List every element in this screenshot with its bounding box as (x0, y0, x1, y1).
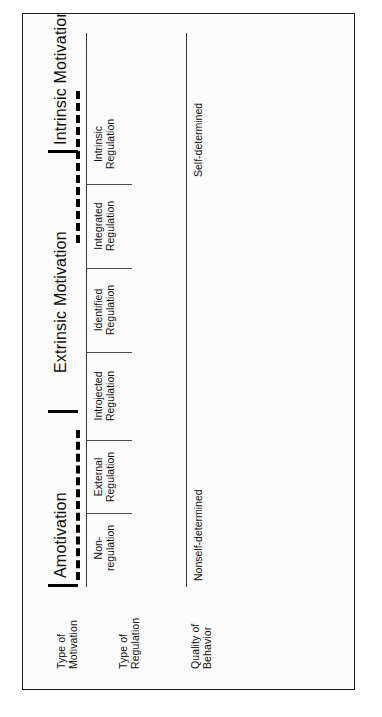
continuum-dash-amotivation-extrinsic (76, 430, 80, 580)
continuum-dash-extrinsic-intrinsic (76, 91, 80, 243)
band-tick-amotivation (48, 584, 78, 587)
regulation-divider-4 (86, 268, 132, 269)
regulation-label-intrinsic-regulation: Intrinsic Regulation (92, 107, 116, 181)
diagram-canvas: Type of Motivation Amotivation Extrinsic… (23, 14, 356, 691)
row-label-type-of-regulation: Type of Regulation (118, 609, 141, 669)
regulation-label-external-regulation: External Regulation (92, 443, 116, 511)
band-label-extrinsic-motivation: Extrinsic Motivation (52, 231, 70, 373)
regulation-divider-2 (86, 440, 132, 441)
band-label-amotivation: Amotivation (52, 492, 70, 578)
sdt-continuum-diagram: Type of Motivation Amotivation Extrinsic… (40, 33, 340, 673)
regulation-divider-5 (86, 184, 132, 185)
band-tick-intrinsic (48, 150, 78, 153)
band-label-intrinsic-motivation: Intrinsic Motivation (52, 14, 70, 145)
behavior-row-rule (186, 33, 187, 587)
regulation-row-rule (86, 33, 87, 587)
regulation-label-introjected-regulation: Introjected Regulation (92, 355, 116, 437)
behavior-label-self-determined: Self-determined (192, 102, 204, 176)
band-tick-extrinsic (48, 410, 78, 413)
regulation-divider-1 (86, 513, 132, 514)
figure-border: Type of Motivation Amotivation Extrinsic… (22, 13, 355, 690)
figure-page: Type of Motivation Amotivation Extrinsic… (0, 0, 382, 717)
row-label-type-of-motivation: Type of Motivation (56, 609, 79, 669)
regulation-divider-3 (86, 352, 132, 353)
behavior-label-nonself-determined: Nonself-determined (192, 489, 204, 581)
regulation-label-non-regulation: Non- regulation (92, 515, 116, 581)
regulation-label-integrated-regulation: Integrated Regulation (92, 187, 116, 265)
regulation-label-identified-regulation: Identified Regulation (92, 271, 116, 349)
row-label-quality-of-behavior: Quality of Behavior (190, 603, 213, 669)
